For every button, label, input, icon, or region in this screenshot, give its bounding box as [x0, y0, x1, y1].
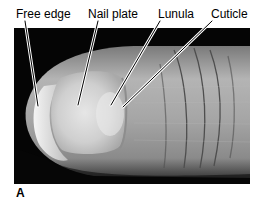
label-free-edge: Free edge: [16, 7, 71, 21]
label-nail-plate: Nail plate: [88, 7, 138, 21]
lunula: [96, 92, 124, 136]
thumb-illustration: [14, 28, 250, 184]
panel-letter: A: [16, 186, 25, 198]
label-cuticle: Cuticle: [211, 7, 248, 21]
label-lunula: Lunula: [158, 7, 194, 21]
thumbnail-photo: [14, 28, 250, 184]
